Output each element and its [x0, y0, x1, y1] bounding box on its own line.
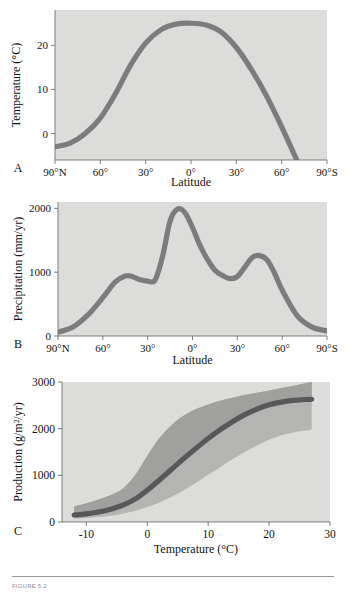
x-tick-label: 90°N	[46, 342, 69, 354]
panel-b-svg: 01000200090°N60°30°0°30°60°90°SLatitudeP…	[0, 190, 352, 370]
x-axis-title: Latitude	[173, 353, 213, 367]
y-tick-label: 20	[37, 39, 49, 51]
y-tick-label: 2000	[29, 202, 52, 214]
x-tick-label: 60°	[95, 342, 110, 354]
x-tick-label: -10	[79, 528, 95, 540]
figure-caption: FIGURE 5.2	[12, 583, 342, 589]
chart-panel-b: 01000200090°N60°30°0°30°60°90°SLatitudeP…	[0, 190, 352, 370]
y-tick-label: 2000	[32, 423, 55, 435]
x-tick-label: 90°S	[316, 342, 338, 354]
x-tick-label: 30°	[138, 166, 153, 178]
y-axis-title: Production (g/m²/yr)	[11, 402, 25, 501]
y-tick-label: 10	[37, 83, 49, 95]
chart-panel-a: 0102090°N60°30°0°30°60°90°SLatitudeTempe…	[0, 0, 352, 190]
x-tick-label: 30°	[230, 342, 245, 354]
x-axis-title: Latitude	[171, 175, 211, 189]
panel-letter: C	[14, 524, 22, 538]
panel-letter: B	[14, 337, 22, 351]
x-tick-label: 90°S	[316, 166, 338, 178]
x-tick-label: 60°	[93, 166, 108, 178]
x-tick-label: 30	[324, 528, 336, 540]
y-axis-title: Precipitation (mm/yr)	[11, 217, 25, 321]
y-tick-label: 1000	[32, 469, 55, 481]
x-tick-label: 30°	[229, 166, 244, 178]
x-tick-label: 60°	[274, 166, 289, 178]
y-tick-label: 0	[43, 128, 49, 140]
figure-container: 0102090°N60°30°0°30°60°90°SLatitudeTempe…	[0, 0, 352, 594]
y-tick-label: 0	[49, 516, 55, 528]
panel-a-svg: 0102090°N60°30°0°30°60°90°SLatitudeTempe…	[0, 0, 352, 190]
y-tick-label: 0	[46, 330, 52, 342]
x-tick-label: 20	[263, 528, 275, 540]
y-tick-label: 1000	[29, 266, 52, 278]
x-tick-label: 60°	[274, 342, 289, 354]
panel-c-svg: 0100020003000-100102030Temperature (°C)P…	[0, 370, 352, 570]
y-axis-title: Temperature (°C)	[9, 43, 23, 127]
panel-letter: A	[14, 161, 23, 175]
x-tick-label: 0	[144, 528, 150, 540]
caption-divider	[12, 576, 334, 577]
x-tick-label: 30°	[140, 342, 155, 354]
y-tick-label: 3000	[32, 376, 55, 388]
chart-panel-c: 0100020003000-100102030Temperature (°C)P…	[0, 370, 352, 570]
x-axis-title: Temperature (°C)	[154, 542, 238, 556]
x-tick-label: 90°N	[43, 166, 66, 178]
x-tick-label: 10	[202, 528, 214, 540]
